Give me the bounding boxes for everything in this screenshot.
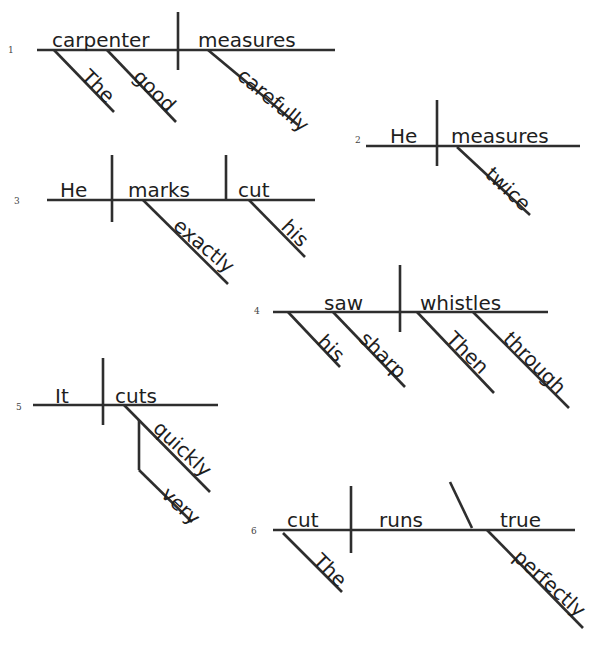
diagram-number: 2 xyxy=(355,135,361,145)
diagram-word: cut xyxy=(238,180,270,200)
diagram-word: He xyxy=(390,126,417,146)
diagram-word: measures xyxy=(451,126,549,146)
diagram-word: cut xyxy=(287,510,319,530)
diagram-number: 1 xyxy=(8,45,14,55)
diagram-number: 6 xyxy=(251,526,257,536)
diagram-number: 3 xyxy=(14,196,20,206)
diagram-number: 4 xyxy=(254,306,260,316)
diagram-word: saw xyxy=(324,293,363,313)
diagram-word: runs xyxy=(379,510,423,530)
diagram-word: measures xyxy=(198,30,296,50)
diagram-word: cuts xyxy=(115,386,157,406)
diagram-word: It xyxy=(55,386,69,406)
diagram-line xyxy=(450,482,472,528)
diagram-number: 5 xyxy=(16,402,22,412)
diagram-lines-layer xyxy=(0,0,598,645)
diagram-word: marks xyxy=(128,180,190,200)
diagram-word: whistles xyxy=(420,293,501,313)
diagram-word: He xyxy=(60,180,87,200)
diagram-2-lines xyxy=(366,100,580,215)
sentence-diagram-canvas: 1carpentermeasuresThegoodcarefully2Hemea… xyxy=(0,0,598,645)
diagram-word: carpenter xyxy=(52,30,150,50)
diagram-word: true xyxy=(500,510,541,530)
